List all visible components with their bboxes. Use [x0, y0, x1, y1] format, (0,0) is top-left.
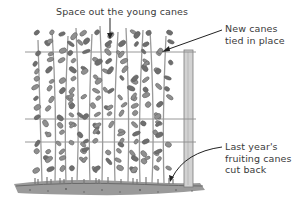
label-line: tied in place	[225, 35, 285, 47]
label-line: cut back	[225, 164, 292, 176]
trellis-post	[184, 50, 193, 187]
label-old-canes: Last year's fruiting canes cut back	[225, 141, 292, 176]
label-new-canes: New canes tied in place	[225, 23, 285, 46]
label-line: New canes	[225, 23, 285, 35]
label-space-out-canes: Space out the young canes	[56, 6, 188, 18]
label-line: Last year's	[225, 141, 292, 153]
ground	[14, 180, 205, 195]
raspberry-trellis-diagram: Space out the young canes New canes tied…	[0, 0, 294, 207]
arrow-old-canes	[169, 147, 222, 182]
label-line: fruiting canes	[225, 153, 292, 165]
